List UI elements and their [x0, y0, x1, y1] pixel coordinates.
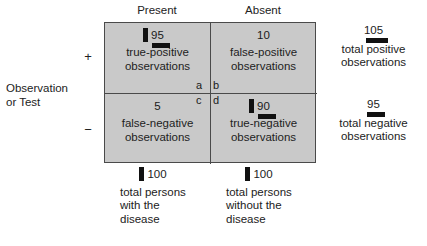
cell-false-positive-count-text: 10: [257, 29, 270, 41]
row-total-negative-desc-line2: observations: [322, 130, 425, 144]
cell-true-positive-count-text: 95: [151, 29, 164, 41]
cell-false-negative: 5 false-negative observations: [105, 94, 210, 164]
column-total-nondiseased-description: total persons without the disease: [210, 186, 316, 227]
row-sign-positive: +: [80, 49, 96, 64]
cell-true-negative-desc-line2: observations: [230, 131, 297, 145]
row-total-positive-count: 105: [364, 24, 383, 37]
row-total-positive-description: total positive observations: [322, 43, 425, 70]
redaction-mark-icon: [139, 167, 144, 181]
cell-letter-c: c: [196, 94, 202, 106]
column-total-diseased-description: total persons with the disease: [104, 186, 210, 227]
column-total-diseased-desc-line1: total persons: [120, 186, 210, 200]
cell-true-negative-description: true-negative observations: [230, 117, 297, 144]
cell-false-positive: 10 false-positive observations: [211, 23, 316, 93]
row-axis-label-line1: Observation: [6, 82, 98, 96]
column-total-nondiseased-count-text: 100: [253, 168, 272, 180]
row-total-negative-description: total negative observations: [322, 117, 425, 144]
cell-false-positive-description: false-positive observations: [230, 46, 297, 73]
row-sign-negative: −: [80, 122, 96, 137]
cell-false-negative-count: 5: [154, 100, 160, 113]
underline-mark-icon: [366, 38, 388, 43]
cell-false-negative-description: false-negative observations: [122, 117, 194, 144]
column-total-nondiseased-desc-line2: without the: [226, 199, 316, 213]
column-total-diseased-count: 100: [147, 168, 166, 181]
cell-true-positive-desc-line2: observations: [125, 60, 190, 74]
cell-true-positive-count: 95: [151, 29, 164, 42]
row-axis-label: Observation or Test: [6, 82, 98, 109]
underline-mark-icon: [258, 114, 276, 119]
cell-false-positive-desc-line2: observations: [230, 60, 297, 74]
column-total-nondiseased-desc-line1: total persons: [226, 186, 316, 200]
cell-letter-d: d: [213, 94, 219, 106]
figure-canvas: Present Absent Observation or Test + − 9…: [0, 0, 427, 246]
column-total-diseased-desc-line3: disease: [120, 213, 210, 227]
row-total-positive-desc-line1: total positive: [322, 43, 425, 57]
underline-mark-icon: [152, 43, 170, 48]
cell-false-negative-count-text: 5: [154, 100, 160, 112]
row-total-positive: 105 total positive observations: [322, 24, 425, 70]
redaction-mark-icon: [249, 99, 254, 113]
cell-false-positive-count: 10: [257, 29, 270, 42]
cell-true-negative-desc-line1: true-negative: [230, 117, 297, 131]
row-total-negative-desc-line1: total negative: [322, 117, 425, 131]
column-total-diseased-count-text: 100: [147, 168, 166, 180]
cell-false-positive-desc-line1: false-positive: [230, 46, 297, 60]
cell-letter-a: a: [196, 79, 202, 91]
row-total-positive-count-text: 105: [364, 24, 383, 36]
cell-true-positive-desc-line1: true-positive: [125, 46, 190, 60]
cell-true-negative: 90 true-negative observations: [211, 94, 316, 164]
column-total-diseased: 100 total persons with the disease: [104, 168, 210, 226]
column-total-nondiseased-count: 100: [253, 168, 272, 181]
cell-false-negative-desc-line1: false-negative: [122, 117, 194, 131]
column-total-diseased-desc-line2: with the: [120, 199, 210, 213]
underline-mark-icon: [367, 112, 385, 117]
cell-true-negative-count-text: 90: [257, 100, 270, 112]
redaction-mark-icon: [143, 28, 148, 42]
row-axis-label-line2: or Test: [6, 96, 98, 110]
row-total-negative: 95 total negative observations: [322, 98, 425, 144]
column-total-nondiseased-desc-line3: disease: [226, 213, 316, 227]
contingency-matrix: 95 true-positive observations 10 false-p…: [104, 22, 316, 163]
column-total-nondiseased: 100 total persons without the disease: [210, 168, 316, 226]
row-total-positive-desc-line2: observations: [322, 56, 425, 70]
cell-true-negative-count: 90: [257, 100, 270, 113]
row-total-negative-count: 95: [367, 98, 380, 111]
column-header-absent: Absent: [210, 4, 316, 16]
cell-true-positive-description: true-positive observations: [125, 46, 190, 73]
cell-letter-b: b: [213, 79, 219, 91]
redaction-mark-icon: [245, 167, 250, 181]
column-header-present: Present: [104, 4, 210, 16]
row-total-negative-count-text: 95: [367, 98, 380, 110]
cell-false-negative-desc-line2: observations: [122, 131, 194, 145]
cell-true-positive: 95 true-positive observations: [105, 23, 210, 93]
